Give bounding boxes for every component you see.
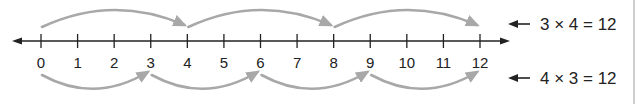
tick-labels-group: 0123456789101112 [37,54,489,71]
top-jump-arrow [335,10,477,27]
bottom-jump-arrow [371,72,477,89]
number-line-diagram: 0123456789101112 3 × 4 = 12 4 × 3 = 12 [0,0,640,104]
tick-label: 10 [398,54,415,71]
bottom-jump-arcs [42,72,477,89]
bottom-jump-arrow [262,72,368,89]
bottom-jump-arrow [152,72,258,89]
top-equation-row: 3 × 4 = 12 [510,15,617,34]
tick-label: 12 [472,54,489,71]
tick-label: 4 [183,54,191,71]
tick-label: 7 [293,54,301,71]
top-jump-arrow [42,10,184,27]
tick-label: 11 [436,54,452,71]
panel-border [633,0,635,104]
tick-label: 9 [366,54,374,71]
top-jump-arrow [188,10,330,27]
tick-label: 0 [37,54,45,71]
top-jump-arcs [42,10,477,27]
bottom-jump-arrow [42,72,148,89]
top-equation: 3 × 4 = 12 [540,15,617,34]
tick-label: 2 [110,54,118,71]
axis-left-arrow-icon [12,38,22,45]
tick-label: 5 [220,54,228,71]
bottom-equation-row: 4 × 3 = 12 [510,69,617,88]
tick-label: 8 [329,54,337,71]
axis-right-arrow-icon [500,38,510,45]
tick-label: 3 [147,54,155,71]
bottom-equation: 4 × 3 = 12 [540,69,617,88]
tick-label: 6 [256,54,264,71]
tick-label: 1 [73,54,81,71]
